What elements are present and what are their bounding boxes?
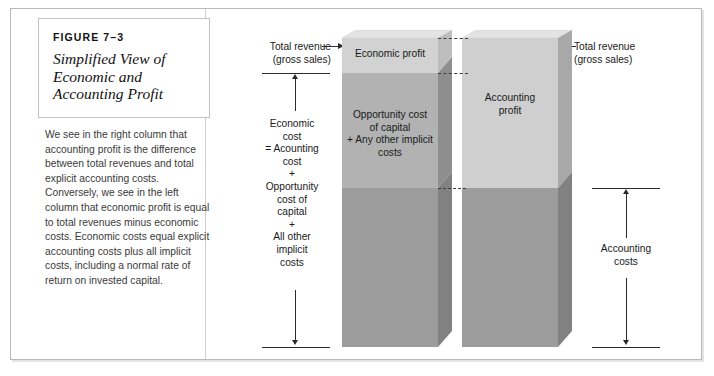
right-bar-accounting-profit-line-1: Accounting: [462, 92, 558, 105]
accounting-costs-down-arrow-icon: [623, 340, 629, 345]
accounting-costs-label: Accounting costs: [586, 243, 666, 268]
right-bar-accounting-profit-label: Accounting profit: [462, 92, 558, 117]
economic-cost-bracket-bottom-rule: [262, 347, 330, 348]
right-bar-segment-accounting-costs: [462, 188, 558, 347]
economic-cost-up-arrow-icon: [292, 74, 298, 79]
dash-connector-explicit-cost-boundary: [438, 188, 466, 189]
total-revenue-right-line-2: (gross sales): [574, 53, 670, 66]
total-revenue-right-line-1: Total revenue: [574, 40, 670, 53]
total-revenue-left-line-2: (gross sales): [253, 53, 331, 66]
total-revenue-label-right: Total revenue (gross sales): [574, 40, 670, 66]
economic-cost-bracket-upper-stem: [295, 78, 296, 111]
accounting-costs-bracket-lower-stem: [626, 278, 627, 340]
right-bar-side-faces: [558, 30, 576, 348]
right-column-bar: Accounting profit: [462, 30, 572, 348]
economic-cost-label: Economic cost = Acounting cost + Opportu…: [252, 118, 332, 269]
accounting-costs-bracket-upper-stem: [626, 193, 627, 238]
left-bar-segment-explicit-costs: [342, 188, 438, 347]
figure-title-line-1: Simplified View of: [53, 50, 199, 68]
left-column-bar: Economic profit Opportunity cost of capi…: [342, 30, 452, 348]
right-bar-segment-accounting-profit: Accounting profit: [462, 38, 558, 188]
left-bar-segment-implicit-costs: Opportunity cost of capital + Any other …: [342, 73, 438, 188]
figure-title-line-2: Economic and: [53, 68, 199, 86]
left-bar-segment-economic-profit: Economic profit: [342, 38, 438, 73]
figure-title: Simplified View of Economic and Accounti…: [53, 50, 199, 103]
dash-connector-economic-profit-boundary: [438, 73, 468, 74]
total-revenue-left-line-1: Total revenue: [253, 40, 331, 53]
economic-cost-bracket-lower-stem: [295, 290, 296, 340]
dash-connector-top: [438, 38, 468, 39]
left-bar-implicit-line-3: + Any other implicit: [342, 134, 438, 147]
right-bar-accounting-profit-line-2: profit: [462, 105, 558, 118]
figure-title-box: FIGURE 7–3 Simplified View of Economic a…: [38, 18, 210, 118]
left-bar-implicit-costs-label: Opportunity cost of capital + Any other …: [342, 109, 438, 159]
economic-cost-down-arrow-icon: [292, 340, 298, 345]
figure-page: FIGURE 7–3 Simplified View of Economic a…: [0, 0, 714, 376]
accounting-costs-bracket-bottom-rule: [592, 347, 660, 348]
left-bar-implicit-line-2: of capital: [342, 122, 438, 135]
left-bar-implicit-line-4: costs: [342, 147, 438, 160]
figure-title-line-3: Accounting Profit: [53, 85, 199, 103]
left-bar-economic-profit-label: Economic profit: [342, 48, 438, 61]
figure-caption: We see in the right column that accounti…: [45, 128, 210, 289]
accounting-costs-up-arrow-icon: [623, 189, 629, 194]
figure-number: FIGURE 7–3: [53, 31, 199, 43]
left-bar-implicit-line-1: Opportunity cost: [342, 109, 438, 122]
total-revenue-label-left: Total revenue (gross sales): [253, 40, 331, 66]
left-bar-side-faces: [438, 30, 456, 348]
